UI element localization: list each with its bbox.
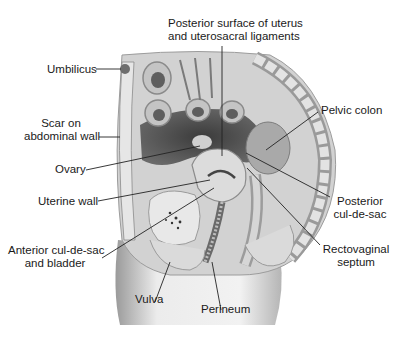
label-uterine-wall: Uterine wall (38, 195, 98, 208)
label-rectovaginal-line1: Rectovaginal (318, 243, 394, 256)
label-posterior-surface-line2: and uterosacral ligaments (168, 30, 278, 43)
anatomy-diagram: Posterior surface of uterus and uterosac… (0, 0, 407, 342)
label-posterior-cds-line2: cul-de-sac (330, 208, 390, 221)
label-vulva: Vulva (135, 293, 163, 306)
label-pelvic-colon: Pelvic colon (321, 104, 382, 117)
label-scar-line1: Scar on (24, 117, 98, 130)
label-anterior-line2: and bladder (8, 257, 102, 270)
label-posterior-surface: Posterior surface of uterus and uterosac… (168, 17, 278, 43)
label-rectovaginal-line2: septum (318, 256, 394, 269)
label-ovary: Ovary (55, 163, 86, 176)
label-umbilicus: Umbilicus (47, 63, 97, 76)
label-posterior-cul-de-sac: Posterior cul-de-sac (330, 195, 390, 221)
label-posterior-cds-line1: Posterior (330, 195, 390, 208)
label-scar-line2: abdominal wall (24, 130, 98, 143)
label-posterior-surface-line1: Posterior surface of uterus (168, 17, 278, 30)
label-anterior-cul-de-sac: Anterior cul-de-sac and bladder (8, 244, 102, 270)
label-scar: Scar on abdominal wall (24, 117, 98, 143)
label-rectovaginal-septum: Rectovaginal septum (318, 243, 394, 269)
label-anterior-line1: Anterior cul-de-sac (8, 244, 102, 257)
label-perineum: Perineum (201, 303, 250, 316)
